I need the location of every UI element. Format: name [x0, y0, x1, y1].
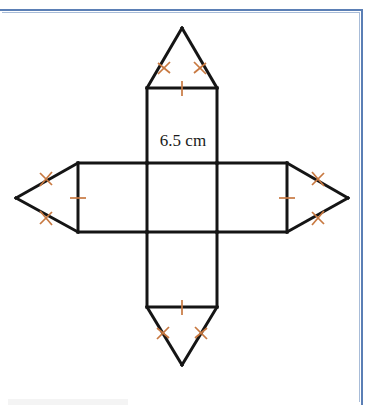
face-rect-top: [147, 88, 217, 163]
scan-artifact: [8, 399, 128, 405]
dimension-label-6-5-cm: 6.5 cm: [150, 131, 216, 151]
face-rect-left: [78, 163, 147, 232]
worksheet-page: 6.5 cm: [0, 0, 371, 405]
face-triangle-right: [287, 163, 348, 232]
net-diagram: [0, 0, 371, 405]
face-rect-right: [217, 163, 287, 232]
face-rect-bottom: [147, 232, 217, 307]
face-triangle-top: [147, 28, 217, 88]
face-square: [147, 163, 217, 232]
face-triangle-left: [16, 163, 78, 232]
face-triangle-bottom: [147, 307, 217, 365]
